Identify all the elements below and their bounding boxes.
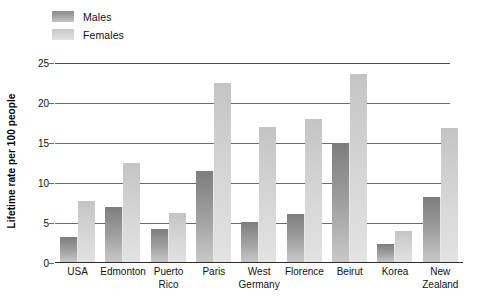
bar-series-container xyxy=(55,63,463,263)
legend-swatch-females xyxy=(52,29,74,40)
y-tick-label-20: 20 xyxy=(38,98,49,109)
bar-group-new-zealand xyxy=(418,63,463,263)
y-tick-mark-25 xyxy=(49,63,54,64)
y-tick-mark-10 xyxy=(49,183,54,184)
y-axis-title: Lifetime rate per 100 people xyxy=(0,0,9,68)
y-tick-mark-15 xyxy=(49,143,54,144)
bar-group-korea xyxy=(372,63,417,263)
bar-females-puerto-rico xyxy=(169,213,186,263)
legend-label-males: Males xyxy=(83,11,112,23)
x-label-usa: USA xyxy=(55,266,100,291)
bar-males-new-zealand xyxy=(423,197,441,263)
legend-item-males: Males xyxy=(52,9,124,24)
x-label-edmonton: Edmonton xyxy=(100,266,146,291)
x-label-paris: Paris xyxy=(191,266,236,291)
bar-males-puerto-rico xyxy=(151,229,169,263)
legend-label-females: Females xyxy=(83,29,124,41)
y-tick-label-5: 5 xyxy=(43,218,49,229)
y-tick-label-10: 10 xyxy=(38,178,49,189)
bar-males-usa xyxy=(60,237,78,263)
bar-males-edmonton xyxy=(105,207,123,263)
y-tick-label-0: 0 xyxy=(43,258,49,269)
bar-males-paris xyxy=(196,171,214,263)
bar-group-florence xyxy=(282,63,327,263)
y-tick-mark-0 xyxy=(49,263,54,264)
bar-group-usa xyxy=(55,63,100,263)
bar-males-korea xyxy=(377,244,395,263)
x-label-florence: Florence xyxy=(282,266,327,291)
plot-area: 0510152025 xyxy=(55,63,463,263)
bar-males-west-germany xyxy=(241,222,259,263)
legend-swatch-males xyxy=(52,11,74,22)
bar-chart: Males Females Lifetime rate per 100 peop… xyxy=(0,0,485,305)
bar-females-new-zealand xyxy=(441,128,458,263)
bar-males-florence xyxy=(287,214,305,263)
x-label-korea: Korea xyxy=(372,266,417,291)
x-label-west-germany: WestGermany xyxy=(236,266,281,291)
bar-group-paris xyxy=(191,63,236,263)
bar-females-west-germany xyxy=(259,127,276,263)
x-label-new-zealand: NewZealand xyxy=(418,266,463,291)
x-label-beirut: Beirut xyxy=(327,266,372,291)
page-footer-artifact xyxy=(8,300,308,305)
bar-females-edmonton xyxy=(123,163,140,263)
bar-group-edmonton xyxy=(100,63,145,263)
bar-females-paris xyxy=(214,83,231,263)
x-axis-labels: USAEdmontonPuertoRicoParisWestGermanyFlo… xyxy=(55,266,463,291)
chart-legend: Males Females xyxy=(52,9,124,45)
x-label-puerto-rico: PuertoRico xyxy=(146,266,191,291)
y-tick-label-15: 15 xyxy=(38,138,49,149)
legend-item-females: Females xyxy=(52,27,124,42)
y-tick-mark-20 xyxy=(49,103,54,104)
bar-females-florence xyxy=(305,119,322,263)
y-tick-mark-5 xyxy=(49,223,54,224)
bar-females-usa xyxy=(78,201,95,263)
bar-group-puerto-rico xyxy=(146,63,191,263)
x-axis-line xyxy=(55,262,463,264)
bar-group-west-germany xyxy=(236,63,281,263)
y-tick-label-25: 25 xyxy=(38,58,49,69)
bar-group-beirut xyxy=(327,63,372,263)
bar-males-beirut xyxy=(332,143,350,263)
bar-females-beirut xyxy=(350,74,367,263)
bar-females-korea xyxy=(395,231,412,263)
